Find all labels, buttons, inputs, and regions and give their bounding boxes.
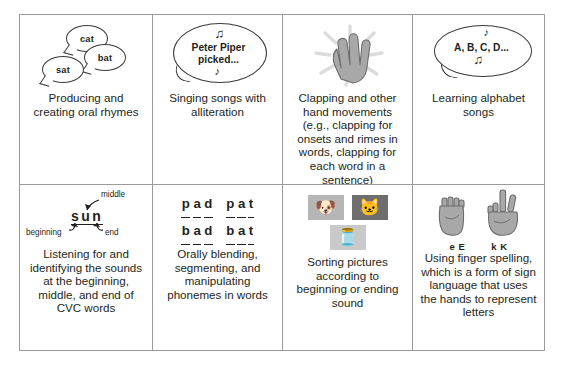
music-note-icon: ♫ <box>215 26 225 41</box>
hand-label-e: e E <box>449 241 465 252</box>
hand-sign-k-icon <box>485 188 525 240</box>
phoneme-letter: a <box>193 218 201 245</box>
cell-caption: Sorting pictures according to beginning … <box>288 255 407 309</box>
cat-icon: 🐱 <box>359 199 380 216</box>
finger-spelling-art: e E k K <box>418 189 539 251</box>
speech-bubble-bat-label: bat <box>98 53 113 63</box>
phoneme-word-grid: pad pat bad bat <box>181 191 253 245</box>
table-cell-finger-spelling: e E k K Using finger spelling, which is … <box>413 185 544 351</box>
music-note-icon: ♪ <box>484 26 490 38</box>
table-cell-singing-songs-alliteration: ♫ ♪ Peter Piper picked... Singing songs … <box>153 15 283 185</box>
speech-bubble-cat-label: cat <box>80 34 94 44</box>
phoneme-letter: p <box>181 191 190 218</box>
word-pat: pat <box>226 191 254 218</box>
table-cell-listening-identifying-sounds-cvc: middle beginning end sun Lis <box>20 185 153 351</box>
phoneme-letter: b <box>226 218 235 245</box>
picture-card-row-bottom: 🫙 <box>330 225 366 250</box>
music-note-icon: ♪ <box>215 65 221 77</box>
cell-caption: Using finger spelling, which is a form o… <box>418 251 539 319</box>
speech-bubble-text: Peter Piper picked... <box>173 42 265 65</box>
speech-bubble-tail-icon <box>39 75 54 86</box>
activities-table: cat bat sat Producing and creating oral … <box>19 14 545 351</box>
clapping-hand-art <box>288 19 407 91</box>
cat-picture-card: 🐱 <box>352 195 388 220</box>
cell-caption: Listening for and identifying the sounds… <box>25 247 147 315</box>
hand-sign-e-icon <box>433 192 469 240</box>
cell-caption: Producing and creating oral rhymes <box>25 91 147 118</box>
speech-bubble-icon-bat: bat <box>84 44 126 71</box>
hand-label-k: k K <box>491 241 507 252</box>
rhyme-speech-bubbles-art: cat bat sat <box>25 19 147 91</box>
phoneme-letter: a <box>193 191 201 218</box>
phoneme-letter: p <box>226 191 235 218</box>
hand-sign-labels: e E k K <box>449 241 507 252</box>
phoneme-word-grid-art: pad pat bad bat <box>158 189 277 247</box>
pointer-arrows-icon <box>25 190 153 246</box>
phoneme-letter: d <box>204 191 213 218</box>
speech-bubble-tail-icon <box>63 44 78 55</box>
table-cell-producing-creating-oral-rhymes: cat bat sat Producing and creating oral … <box>20 15 153 185</box>
speech-bubble-sat-label: sat <box>56 65 70 75</box>
table-cell-clapping-hand-movements: Clapping and other hand movements (e.g.,… <box>283 15 413 185</box>
cell-caption: Clapping and other hand movements (e.g.,… <box>288 91 407 185</box>
cell-caption: Singing songs with alliteration <box>158 91 277 118</box>
phoneme-letter: a <box>237 191 245 218</box>
dog-picture-card: 🐶 <box>308 195 344 220</box>
word-bad: bad <box>181 218 212 245</box>
dog-icon: 🐶 <box>315 199 336 216</box>
jar-picture-card: 🫙 <box>330 225 366 250</box>
word-pad: pad <box>181 191 212 218</box>
picture-card-row-top: 🐶 🐱 <box>308 195 388 220</box>
cell-caption: Learning alphabet songs <box>418 91 539 118</box>
phoneme-letter: a <box>237 218 245 245</box>
peter-piper-bubble-art: ♫ ♪ Peter Piper picked... <box>158 19 277 91</box>
phoneme-letter: d <box>204 218 213 245</box>
speech-bubble-icon-sat: sat <box>42 56 84 83</box>
word-row: bad bat <box>181 218 253 245</box>
table-cell-learning-alphabet-songs: ♪ ♫ A, B, C, D... Learning alphabet song… <box>413 15 544 185</box>
phoneme-letter: b <box>181 218 190 245</box>
table-cell-sorting-pictures-by-sound: 🐶 🐱 🫙 Sorting pictures according to begi… <box>283 185 413 351</box>
speech-bubble-text: A, B, C, D... <box>434 42 530 53</box>
alphabet-song-bubble-art: ♪ ♫ A, B, C, D... <box>418 19 539 91</box>
phoneme-letter: t <box>248 191 253 218</box>
word-bat: bat <box>226 218 254 245</box>
picture-cards-art: 🐶 🐱 🫙 <box>288 189 407 255</box>
jar-icon: 🫙 <box>337 229 358 246</box>
table-cell-orally-blending-segmenting: pad pat bad bat Orally blending, segment… <box>153 185 283 351</box>
music-note-icon: ♫ <box>474 52 484 67</box>
speech-bubble-line-1: Peter Piper <box>173 42 265 54</box>
word-row: pad pat <box>181 191 253 218</box>
phoneme-letter: t <box>248 218 253 245</box>
cell-caption: Orally blending, segmenting, and manipul… <box>158 247 277 301</box>
clapping-hand-icon <box>305 19 391 91</box>
speech-bubble-line-2: picked... <box>173 54 265 66</box>
sun-word-diagram-art: middle beginning end sun <box>25 189 147 247</box>
